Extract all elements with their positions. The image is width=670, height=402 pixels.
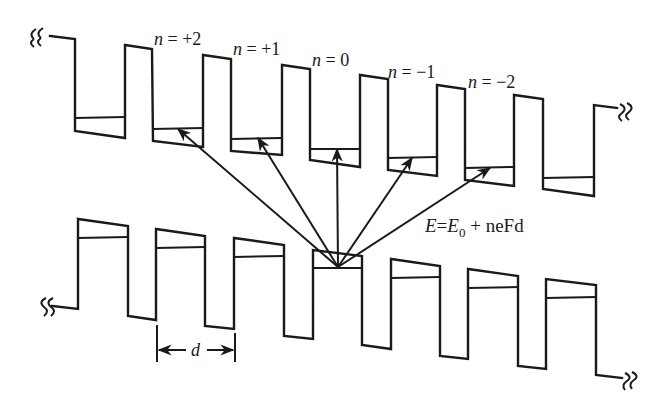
diagram-canvas: n = +2 n = +1 n = 0 n = −1 n = −2 E=E0 +… — [0, 0, 670, 402]
break-squiggle-icon — [619, 103, 632, 121]
level-well-3 — [231, 138, 282, 139]
ladder-labels: n = +2 n = +1 n = 0 n = −1 n = −2 — [154, 29, 515, 92]
label-n-plus-1: n = +1 — [233, 39, 280, 59]
label-n-0: n = 0 — [312, 50, 349, 70]
break-squiggle-icon — [41, 298, 54, 316]
period-label: d — [191, 340, 201, 360]
superlattice-diagram: n = +2 n = +1 n = 0 n = −1 n = −2 E=E0 +… — [0, 0, 670, 402]
break-squiggle-icon — [31, 28, 43, 47]
arrow-n-plus-1 — [258, 138, 338, 267]
period-marker: d — [157, 325, 235, 362]
label-n-minus-2: n = −2 — [468, 72, 515, 92]
level-hump-5 — [391, 277, 440, 278]
energy-equation: E=E0 + neFd — [424, 215, 524, 240]
level-well-1 — [75, 117, 125, 118]
level-hump-1 — [78, 237, 128, 238]
arrow-n-minus-1 — [338, 158, 412, 267]
break-squiggle-icon — [623, 372, 636, 390]
level-hump-6 — [468, 287, 518, 288]
level-hump-3 — [234, 256, 284, 257]
valence-band-profile — [41, 219, 636, 390]
level-hump-2 — [156, 247, 205, 248]
arrow-n-0 — [337, 149, 338, 267]
label-n-plus-2: n = +2 — [154, 29, 201, 49]
level-well-7 — [543, 177, 594, 178]
label-n-minus-1: n = −1 — [388, 62, 435, 82]
level-hump-7 — [546, 297, 596, 298]
level-well-2 — [153, 128, 203, 129]
level-well-5 — [388, 157, 437, 158]
